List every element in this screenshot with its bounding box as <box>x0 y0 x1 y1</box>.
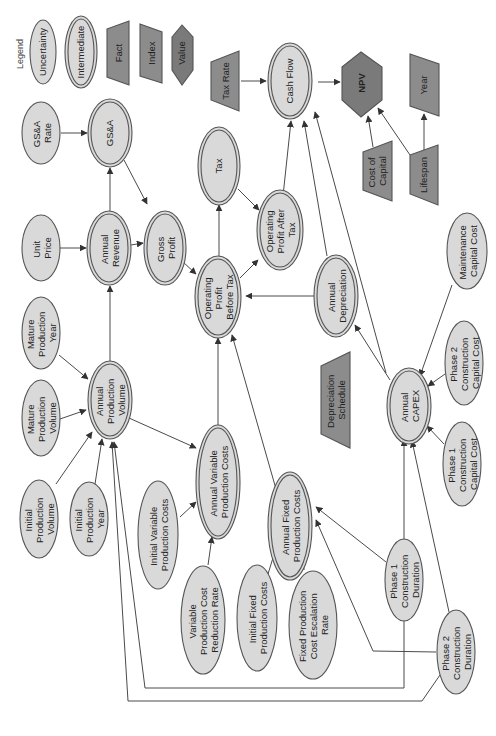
node-gross-profit[interactable]: Gross Profit <box>144 211 186 285</box>
node-variable-production-cost-reduction-rate[interactable]: Variable Production Cost Reduction Rate <box>181 566 225 674</box>
svg-text:Annual CAPEX: Annual CAPEX <box>399 389 421 422</box>
svg-text:Maintenance Capital Co: Maintenance Capital Cost <box>457 222 479 279</box>
svg-text:Cash Flow: Cash Flow <box>284 58 295 103</box>
edge-op-after-tax-to-cash-flow <box>283 121 291 196</box>
node-annual-revenue[interactable]: Annual Revenue <box>87 211 131 285</box>
node-mature-production-volume[interactable]: Mature Production Volume <box>22 380 60 456</box>
node-annual-capex[interactable]: Annual CAPEX <box>387 368 431 444</box>
svg-text:GS&A: GS&A <box>104 119 115 146</box>
edge-variable-reduction-rate-to-annual-variable-costs <box>208 537 212 565</box>
svg-text:Initial Variable Produ: Initial Variable Production Costs <box>148 499 170 572</box>
svg-text:GS&A Rate: GS&A Rate <box>31 119 53 148</box>
node-tax-rate[interactable]: Tax Rate <box>211 51 239 111</box>
svg-text:Gross Profit: Gross Profit <box>155 234 177 262</box>
node-lifespan[interactable]: Lifespan <box>410 145 438 205</box>
node-gsa[interactable]: GS&A <box>88 99 132 167</box>
legend-value: Value <box>172 25 193 85</box>
node-maintenance-capital-cost[interactable]: Maintenance Capital Cost <box>447 213 487 289</box>
node-fixed-production-cost-escalation-rate[interactable]: Fixed Production Cost Escalation Rate <box>289 571 337 679</box>
node-phase2-construction-capital-cost[interactable]: Phase 2 Construction Capital Cost <box>445 321 483 405</box>
svg-text:Year: Year <box>418 75 429 94</box>
svg-text:Annual Fixed Productio: Annual Fixed Production Costs <box>280 490 302 563</box>
node-depreciation-schedule[interactable]: Depreciation Schedule <box>321 352 350 448</box>
edge-gsa-to-gross-profit <box>124 160 147 204</box>
svg-text:NPV: NPV <box>356 73 367 93</box>
node-mature-production-year[interactable]: Mature Production Year <box>22 297 60 369</box>
influence-diagram: Legend Uncertainty Intermediate Fact Ind… <box>0 0 496 736</box>
svg-text:Lifespan: Lifespan <box>418 157 429 193</box>
edge-initial-variable-to-annual-variable-costs <box>180 502 196 517</box>
node-annual-variable-production-costs[interactable]: Annual Variable Production Costs <box>196 425 240 539</box>
node-phase2-construction-duration[interactable]: Phase 2 Construction Duration <box>437 610 475 694</box>
node-year[interactable]: Year <box>410 54 439 116</box>
node-initial-production-volume[interactable]: Initial Production Volume <box>20 480 58 558</box>
edge-tax-to-op-after-tax <box>238 189 259 210</box>
legend-title: Legend <box>15 39 25 69</box>
edge-phase1-capital-to-annual-capex <box>427 426 444 444</box>
legend-intermediate-label: Intermediate <box>75 26 86 79</box>
node-annual-depreciation[interactable]: Annual Depreciation <box>314 255 358 337</box>
edge-mature-volume-to-annual-production-volume <box>60 410 86 419</box>
edge-phase2-capital-to-annual-capex <box>428 374 445 386</box>
legend: Legend Uncertainty Intermediate Fact Ind… <box>15 16 193 88</box>
edge-cost-of-capital-to-npv <box>368 116 373 147</box>
node-gsa-rate[interactable]: GS&A Rate <box>22 102 60 164</box>
legend-fact-label: Fact <box>113 43 124 62</box>
svg-text:Unit Price: Unit Price <box>31 237 53 259</box>
legend-intermediate: Intermediate <box>65 16 97 88</box>
node-initial-variable-production-costs[interactable]: Initial Variable Production Costs <box>138 481 178 589</box>
svg-text:Tax: Tax <box>213 158 224 173</box>
edge-initial-year-to-annual-production-volume <box>95 439 102 484</box>
svg-text:Depreciation Schedule: Depreciation Schedule <box>325 372 347 428</box>
node-cost-of-capital[interactable]: Cost of Capital <box>363 141 392 201</box>
edge-op-before-tax-to-op-after-tax <box>240 260 258 278</box>
node-unit-price[interactable]: Unit Price <box>22 215 60 281</box>
legend-uncertainty: Uncertainty <box>30 20 56 84</box>
edge-phase1-duration-to-annual-fixed-costs <box>316 507 386 562</box>
legend-index-label: Index <box>146 41 157 64</box>
node-operating-profit-before-tax[interactable]: Operating Profit Before Tax <box>195 256 241 338</box>
legend-fact: Fact <box>107 21 129 85</box>
legend-uncertainty-label: Uncertainty <box>37 28 48 76</box>
svg-text:Annual Variable Produc: Annual Variable Production Costs <box>208 446 230 519</box>
edge-gross-profit-to-op-before-tax <box>183 262 196 274</box>
node-tax[interactable]: Tax <box>198 127 240 205</box>
node-initial-production-year[interactable]: Initial Production Year <box>70 482 108 556</box>
node-annual-fixed-production-costs[interactable]: Annual Fixed Production Costs <box>268 472 312 580</box>
edge-annual-capex-to-annual-depreciation <box>355 325 390 380</box>
svg-text:Tax Rate: Tax Rate <box>220 62 231 100</box>
edge-annual-production-volume-to-annual-variable-costs <box>129 418 196 448</box>
svg-text:Annual Revenue: Annual Revenue <box>99 229 121 267</box>
node-phase1-construction-capital-cost[interactable]: Phase 1 Construction Capital Cost <box>443 422 481 506</box>
node-operating-profit-after-tax[interactable]: Operating Profit After Tax <box>257 190 303 270</box>
node-annual-production-volume[interactable]: Annual Production Volume <box>88 361 132 439</box>
node-initial-fixed-production-costs[interactable]: Initial Fixed Production Costs <box>237 565 277 671</box>
legend-value-label: Value <box>176 41 187 65</box>
svg-text:Cost of Capital: Cost of Capital <box>366 155 388 188</box>
node-npv[interactable]: NPV <box>342 52 382 117</box>
edge-mature-year-to-annual-production-volume <box>59 355 88 379</box>
edge-annual-revenue-to-gross-profit <box>131 243 143 245</box>
edge-annual-depreciation-to-cash-flow <box>304 121 327 256</box>
edge-initial-volume-to-annual-production-volume <box>56 432 92 484</box>
node-cash-flow[interactable]: Cash Flow <box>268 43 312 119</box>
legend-index: Index <box>140 24 162 83</box>
nodes: Tax Rate Cash Flow NPV Year GS&A Rate <box>20 43 487 694</box>
node-phase1-construction-duration[interactable]: Phase 1 Construction Duration <box>385 539 423 621</box>
